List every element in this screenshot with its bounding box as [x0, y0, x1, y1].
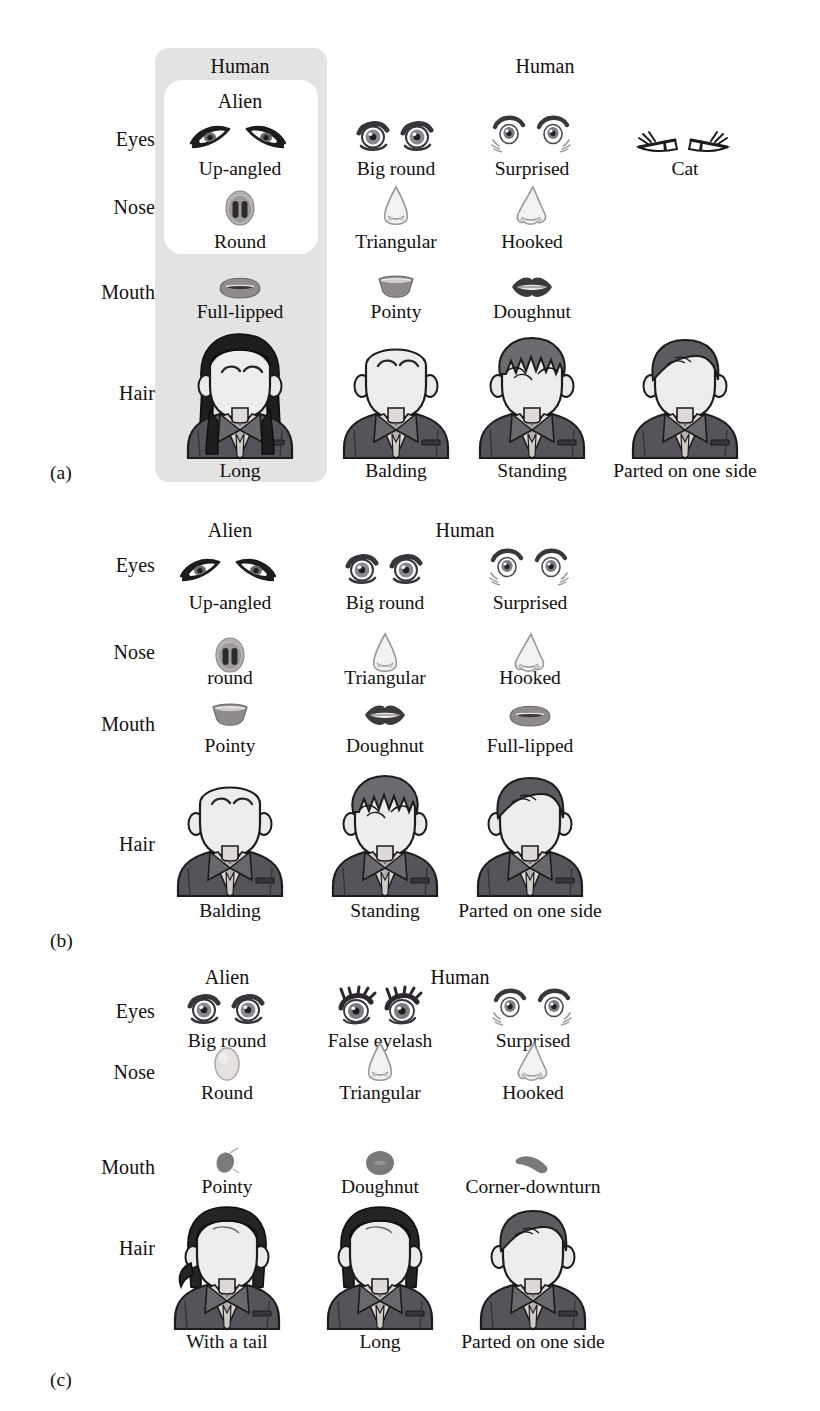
panel-a-caption: Standing — [497, 460, 566, 481]
avatar-hair-with-a-tail-icon[interactable] — [157, 1201, 297, 1331]
eyes-big-round-icon[interactable] — [345, 550, 425, 588]
mouth-doughnut-round-icon[interactable] — [363, 1150, 397, 1176]
panel-b-caption: Surprised — [493, 592, 568, 613]
avatar-hair-standing-icon[interactable] — [315, 768, 455, 898]
panel-b-caption: round — [207, 667, 253, 688]
avatar-hair-parted-icon[interactable] — [460, 768, 600, 898]
panel-c-caption: Triangular — [339, 1082, 421, 1103]
panel-a-caption: Big round — [357, 158, 436, 179]
panel-a-caption: Full-lipped — [197, 301, 284, 322]
panel-b-caption: Pointy — [205, 735, 256, 756]
mouth-pointy-blob-icon[interactable] — [212, 1148, 242, 1176]
nose-round-icon[interactable] — [223, 188, 257, 228]
eyes-big-round-icon[interactable] — [356, 117, 436, 155]
eyes-up-angled-icon[interactable] — [177, 550, 283, 588]
panel-a-inner-group-header: Alien — [218, 90, 262, 112]
panel-a-caption: Round — [214, 231, 266, 252]
panel-b-caption: Doughnut — [346, 735, 424, 756]
panel-a-caption: Long — [219, 460, 260, 481]
panel-b-row-label-mouth: Mouth — [0, 713, 155, 735]
nose-triangular-icon[interactable] — [363, 1042, 397, 1084]
panel-a-row-label-mouth: Mouth — [0, 281, 155, 303]
eyes-surprised-icon[interactable] — [493, 986, 573, 1028]
avatar-hair-long-icon[interactable] — [170, 330, 310, 460]
panel-b-caption: Balding — [199, 900, 261, 921]
avatar-hair-parted-icon[interactable] — [615, 330, 755, 460]
panel-label-c: (c) — [50, 1369, 72, 1390]
panel-a-group-header: Human — [516, 55, 575, 77]
panel-a-caption: Parted on one side — [613, 460, 757, 481]
panel-c-caption: Parted on one side — [461, 1331, 605, 1352]
panel-a-caption: Up-angled — [199, 158, 281, 179]
panel-b-row-label-nose: Nose — [0, 641, 155, 663]
panel-b-caption: Up-angled — [189, 592, 271, 613]
panel-b-caption: Big round — [346, 592, 425, 613]
avatar-hair-balding-icon[interactable] — [326, 330, 466, 460]
mouth-corner-downturn-icon[interactable] — [515, 1153, 551, 1176]
panel-c-caption: Long — [359, 1331, 400, 1352]
panel-b-row-label-eyes: Eyes — [0, 554, 155, 576]
panel-a-caption: Cat — [671, 158, 698, 179]
avatar-hair-long-icon[interactable] — [310, 1201, 450, 1331]
panel-a-row-label-nose: Nose — [0, 196, 155, 218]
mouth-pointy-icon[interactable] — [376, 274, 416, 300]
panel-c-caption: Hooked — [502, 1082, 564, 1103]
panel-b-caption: Triangular — [344, 667, 426, 688]
panel-c-row-label-eyes: Eyes — [0, 1000, 155, 1022]
mouth-full-lipped-icon[interactable] — [218, 275, 262, 300]
panel-a-caption: Doughnut — [493, 301, 571, 322]
nose-hooked-icon[interactable] — [515, 1042, 551, 1084]
nose-triangular-icon[interactable] — [379, 186, 413, 228]
avatar-hair-parted-icon[interactable] — [463, 1201, 603, 1331]
mouth-pointy-icon[interactable] — [210, 702, 250, 728]
panel-a-caption: Balding — [365, 460, 427, 481]
panel-b-caption: Parted on one side — [458, 900, 602, 921]
panel-b-group-header: Alien — [208, 519, 252, 541]
panel-c-caption: Corner-downturn — [466, 1176, 601, 1197]
panel-c-caption: Pointy — [202, 1176, 253, 1197]
eyes-up-angled-icon[interactable] — [187, 117, 293, 155]
panel-a-row-label-eyes: Eyes — [0, 128, 155, 150]
panel-b-caption: Full-lipped — [487, 735, 574, 756]
panel-c-caption: With a tail — [186, 1331, 268, 1352]
panel-b-row-label-hair: Hair — [0, 833, 155, 855]
panel-c-row-label-mouth: Mouth — [0, 1156, 155, 1178]
panel-c-caption: Doughnut — [341, 1176, 419, 1197]
eyes-surprised-icon[interactable] — [492, 113, 572, 155]
eyes-false-eyelash-icon[interactable] — [337, 988, 423, 1028]
panel-b-caption: Standing — [350, 900, 419, 921]
mouth-full-lipped-icon[interactable] — [508, 703, 552, 728]
mouth-doughnut-icon[interactable] — [510, 275, 554, 300]
panel-a-caption: Pointy — [371, 301, 422, 322]
panel-label-a: (a) — [50, 462, 72, 483]
nose-round-ball-icon[interactable] — [210, 1044, 244, 1084]
panel-c-group-header: Human — [431, 966, 490, 988]
panel-label-b: (b) — [50, 930, 73, 951]
nose-hooked-icon[interactable] — [514, 186, 550, 228]
panel-c-row-label-nose: Nose — [0, 1061, 155, 1083]
mouth-doughnut-icon[interactable] — [363, 703, 407, 728]
panel-a-caption: Hooked — [501, 231, 563, 252]
panel-c-row-label-hair: Hair — [0, 1237, 155, 1259]
avatar-hair-balding-icon[interactable] — [160, 768, 300, 898]
panel-a-caption: Surprised — [495, 158, 570, 179]
panel-c-caption: Round — [201, 1082, 253, 1103]
panel-b-group-header: Human — [436, 519, 495, 541]
eyes-cat-icon[interactable] — [637, 127, 733, 155]
panel-b-caption: Hooked — [499, 667, 561, 688]
panel-a-caption: Triangular — [355, 231, 437, 252]
panel-a-group-header: Human — [211, 55, 270, 77]
avatar-hair-standing-icon[interactable] — [462, 330, 602, 460]
eyes-surprised-icon[interactable] — [490, 546, 570, 588]
eyes-big-round-icon[interactable] — [187, 990, 267, 1028]
panel-a-row-label-hair: Hair — [0, 382, 155, 404]
panel-c-group-header: Alien — [205, 966, 249, 988]
